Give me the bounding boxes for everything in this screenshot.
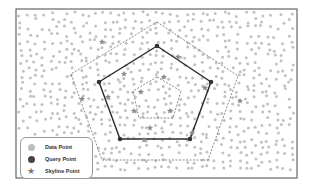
data-point bbox=[70, 42, 73, 45]
data-point bbox=[229, 160, 232, 163]
data-point bbox=[160, 147, 163, 150]
data-point bbox=[148, 89, 151, 92]
data-point bbox=[74, 116, 77, 119]
data-point bbox=[201, 61, 204, 64]
data-point bbox=[104, 165, 107, 168]
data-point bbox=[262, 105, 265, 108]
data-point bbox=[56, 102, 59, 105]
query-point bbox=[209, 80, 214, 85]
data-point bbox=[236, 33, 239, 36]
data-point bbox=[266, 116, 269, 119]
data-point bbox=[59, 42, 62, 45]
data-point bbox=[94, 25, 97, 28]
data-point bbox=[26, 126, 29, 129]
query-point-icon bbox=[25, 156, 37, 163]
data-point bbox=[56, 133, 59, 136]
data-point bbox=[291, 12, 294, 15]
data-point bbox=[93, 83, 96, 86]
data-point bbox=[117, 78, 120, 81]
data-point bbox=[138, 105, 141, 108]
data-point bbox=[57, 20, 60, 23]
data-point bbox=[92, 99, 95, 102]
data-point bbox=[191, 111, 194, 114]
data-point bbox=[118, 32, 121, 35]
data-point bbox=[213, 167, 216, 170]
data-point bbox=[147, 132, 150, 135]
data-point bbox=[253, 69, 256, 72]
data-point bbox=[179, 117, 182, 120]
data-point bbox=[50, 116, 53, 119]
data-point bbox=[269, 69, 272, 72]
data-point bbox=[283, 84, 286, 87]
data-point bbox=[110, 105, 113, 108]
data-point bbox=[162, 55, 165, 58]
data-point bbox=[284, 74, 287, 77]
data-point bbox=[107, 139, 110, 142]
data-point bbox=[239, 110, 242, 113]
data-point bbox=[261, 111, 264, 114]
data-point bbox=[126, 91, 129, 94]
data-point bbox=[133, 161, 136, 164]
legend-item-data-point: Data Point bbox=[25, 141, 88, 153]
data-point bbox=[239, 70, 242, 73]
data-point bbox=[163, 111, 166, 114]
star-icon: ★ bbox=[25, 167, 37, 176]
data-point bbox=[20, 49, 23, 52]
data-point bbox=[252, 89, 255, 92]
data-point bbox=[216, 25, 219, 28]
data-point bbox=[239, 26, 242, 29]
data-point bbox=[274, 104, 277, 107]
data-point bbox=[235, 21, 238, 24]
data-point bbox=[201, 133, 204, 136]
data-point bbox=[48, 29, 51, 32]
data-point bbox=[170, 123, 173, 126]
data-point bbox=[86, 88, 89, 91]
data-point bbox=[108, 61, 111, 64]
data-point bbox=[163, 41, 166, 44]
data-point bbox=[118, 150, 121, 153]
data-point bbox=[164, 91, 167, 94]
data-point bbox=[281, 42, 284, 45]
data-point bbox=[94, 113, 97, 116]
data-point bbox=[104, 133, 107, 136]
data-point bbox=[77, 118, 80, 121]
data-point bbox=[251, 151, 254, 154]
data-point bbox=[35, 53, 38, 56]
data-point bbox=[281, 167, 284, 170]
data-point bbox=[245, 56, 248, 59]
data-point bbox=[168, 88, 171, 91]
data-point bbox=[145, 126, 148, 129]
data-point bbox=[224, 11, 227, 14]
data-point bbox=[239, 166, 242, 169]
data-point bbox=[109, 28, 112, 31]
data-point bbox=[140, 80, 143, 83]
data-point bbox=[200, 140, 203, 143]
data-point bbox=[275, 143, 278, 146]
data-point bbox=[132, 27, 135, 30]
data-point bbox=[164, 103, 167, 106]
data-point bbox=[149, 63, 152, 66]
data-point bbox=[224, 39, 227, 42]
data-point bbox=[25, 60, 28, 63]
data-point bbox=[70, 60, 73, 63]
data-point bbox=[131, 41, 134, 44]
data-point bbox=[40, 56, 43, 59]
data-point bbox=[133, 119, 136, 122]
data-point bbox=[277, 118, 280, 121]
data-point bbox=[232, 66, 235, 69]
data-point bbox=[205, 133, 208, 136]
data-point bbox=[235, 125, 238, 128]
data-point bbox=[178, 109, 181, 112]
data-point bbox=[186, 13, 189, 16]
data-point bbox=[21, 81, 24, 84]
data-point bbox=[250, 48, 253, 51]
data-point bbox=[43, 41, 46, 44]
data-point bbox=[78, 102, 81, 105]
data-point bbox=[89, 32, 92, 35]
data-point bbox=[145, 99, 148, 102]
data-point bbox=[26, 14, 29, 17]
data-point bbox=[18, 26, 21, 29]
data-point bbox=[216, 102, 219, 105]
data-point bbox=[222, 33, 225, 36]
data-point bbox=[109, 52, 112, 55]
